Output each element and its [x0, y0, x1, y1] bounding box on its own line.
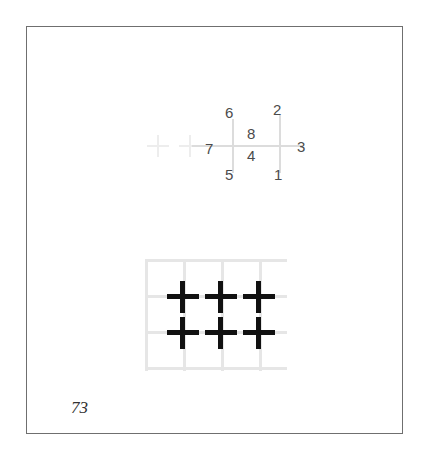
grid-vertical-line — [221, 259, 224, 371]
position-label-8: 8 — [247, 126, 255, 141]
dark-cross-vertical-stroke — [218, 317, 223, 349]
dark-cross-vertical-stroke — [180, 281, 185, 313]
dark-cross-vertical-stroke — [180, 317, 185, 349]
page-canvas: 6 2 8 7 3 4 5 1 — [0, 0, 431, 449]
faint-cross-vertical-stroke — [189, 135, 191, 157]
position-label-4: 4 — [247, 148, 255, 163]
position-label-7: 7 — [205, 141, 213, 156]
position-label-6: 6 — [225, 105, 233, 120]
position-label-1: 1 — [274, 167, 282, 182]
position-label-5: 5 — [225, 167, 233, 182]
grid-vertical-line — [183, 259, 186, 371]
page-number: 73 — [71, 399, 88, 416]
position-label-3: 3 — [297, 139, 305, 154]
grid-horizontal-line — [145, 367, 287, 370]
cross-grid-diagram — [145, 259, 290, 374]
numbered-cross-reference-diagram: 6 2 8 7 3 4 5 1 — [137, 97, 317, 197]
grid-vertical-line — [145, 259, 148, 371]
dark-cross-vertical-stroke — [218, 281, 223, 313]
position-label-2: 2 — [273, 102, 281, 117]
page-border-frame: 6 2 8 7 3 4 5 1 — [26, 26, 403, 434]
faint-cross-vertical-stroke — [157, 135, 159, 157]
top-diagram-vertical-rule-right — [279, 115, 281, 173]
grid-vertical-line — [259, 259, 262, 371]
grid-horizontal-line — [145, 259, 287, 262]
dark-cross-vertical-stroke — [256, 281, 261, 313]
top-diagram-vertical-rule-left — [232, 119, 234, 173]
dark-cross-vertical-stroke — [256, 317, 261, 349]
